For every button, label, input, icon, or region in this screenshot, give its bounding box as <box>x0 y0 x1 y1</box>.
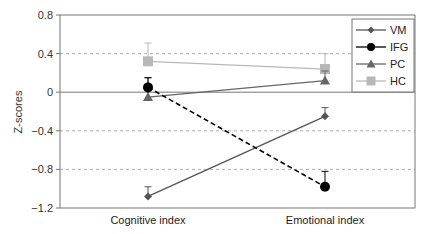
marker-diamond <box>144 192 152 200</box>
legend-label: PC <box>390 58 405 70</box>
marker-circle <box>320 182 330 192</box>
y-tick-label: 0 <box>47 86 53 98</box>
marker-circle <box>143 82 153 92</box>
series-line <box>148 81 325 97</box>
y-axis: 0.80.40−0.4−0.8−1.2 <box>31 9 60 214</box>
y-axis-label: Z-scores <box>12 90 24 133</box>
marker-square <box>367 77 376 86</box>
series-line <box>148 116 325 196</box>
x-category-label: Cognitive index <box>110 214 186 226</box>
series-vm <box>144 108 329 201</box>
marker-diamond <box>321 112 329 120</box>
legend: VMIFGPCHC <box>352 19 414 92</box>
y-tick-label: −0.4 <box>31 125 53 137</box>
marker-circle <box>367 43 375 51</box>
marker-square <box>143 56 153 66</box>
y-tick-label: −1.2 <box>31 202 53 214</box>
marker-triangle <box>320 76 330 85</box>
series-group <box>143 43 330 200</box>
x-category-label: Emotional index <box>286 214 365 226</box>
legend-label: VM <box>390 24 407 36</box>
chart: 0.80.40−0.4−0.8−1.2 Z-scores Cognitive i… <box>0 0 429 234</box>
y-tick-label: 0.4 <box>38 48 53 60</box>
series-pc <box>143 71 330 101</box>
series-line <box>148 87 325 186</box>
y-tick-label: 0.8 <box>38 9 53 21</box>
y-tick-label: −0.8 <box>31 163 53 175</box>
legend-label: IFG <box>390 41 408 53</box>
series-hc <box>143 43 330 74</box>
legend-label: HC <box>390 75 406 87</box>
series-line <box>148 61 325 69</box>
x-axis: Cognitive indexEmotional index <box>110 214 364 226</box>
